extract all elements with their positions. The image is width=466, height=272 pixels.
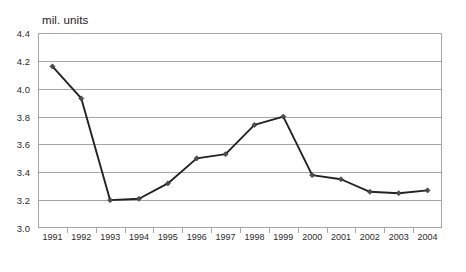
y-tick-label: 3.0 <box>17 223 30 234</box>
line-chart: mil. units 4.44.24.03.83.63.43.23.0 1991… <box>0 0 466 272</box>
x-tick-label: 1999 <box>273 232 293 242</box>
x-tick-label: 1997 <box>216 232 236 242</box>
x-tick-label: 1996 <box>187 232 207 242</box>
chart-title: mil. units <box>42 14 88 26</box>
data-point-marker <box>425 188 430 193</box>
x-tick-label: 2001 <box>331 232 351 242</box>
data-point-marker <box>396 191 401 196</box>
x-tick-label: 1992 <box>71 232 91 242</box>
y-tick-label: 4.2 <box>17 55 30 66</box>
x-tick-label: 1993 <box>100 232 120 242</box>
x-tick-label: 2004 <box>418 232 438 242</box>
x-tick-label: 1998 <box>244 232 264 242</box>
y-tick-label: 3.4 <box>17 167 30 178</box>
data-point-marker <box>108 198 113 203</box>
x-tick-label: 1995 <box>158 232 178 242</box>
x-tick-label: 2002 <box>360 232 380 242</box>
y-tick-label: 3.8 <box>17 111 30 122</box>
series-line-group <box>38 33 442 228</box>
x-tick-label: 1991 <box>42 232 62 242</box>
x-tick-label: 1994 <box>129 232 149 242</box>
y-tick-label: 3.6 <box>17 139 30 150</box>
x-tick-label: 2000 <box>302 232 322 242</box>
x-tick-label: 2003 <box>389 232 409 242</box>
y-tick-label: 4.0 <box>17 83 30 94</box>
x-axis: 1991199219931994199519961997199819992000… <box>38 232 442 254</box>
y-tick-label: 4.4 <box>17 28 30 39</box>
series-line <box>52 66 427 200</box>
y-axis: 4.44.24.03.83.63.43.23.0 <box>0 33 34 228</box>
y-tick-label: 3.2 <box>17 195 30 206</box>
